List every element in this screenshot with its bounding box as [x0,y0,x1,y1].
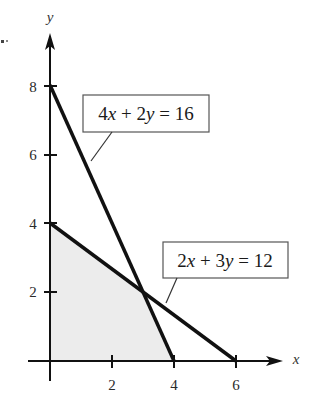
x-axis-label: x [292,351,300,367]
leader-line-1 [91,132,112,161]
linear-programming-chart: 2 4 6 8 2 4 6 y x 4x + 2y = 16 2x + 3y =… [0,0,315,408]
equation-label-1: 4x + 2y = 16 [98,103,193,124]
y-tick-label: 4 [29,216,37,232]
x-tick-label: 2 [108,377,116,393]
x-tick-label: 4 [170,377,178,393]
y-tick-label: 8 [29,79,37,95]
y-axis-label: y [45,9,54,25]
feasible-region [50,223,174,361]
equation-label-2: 2x + 3y = 12 [177,250,272,271]
y-tick-label: 6 [29,147,37,163]
y-tick-label: 2 [29,284,37,300]
x-tick-label: 6 [232,377,240,393]
leader-line-2 [166,278,177,303]
